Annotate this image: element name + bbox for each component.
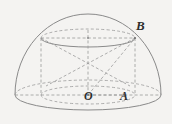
cylinder-top-center-marker	[87, 37, 89, 39]
geometry-figure: B O A	[0, 0, 172, 124]
vertex-label-a: A	[120, 90, 128, 102]
vertex-label-o: O	[84, 90, 93, 102]
vertex-label-b: B	[136, 19, 145, 32]
point-B-marker	[134, 37, 136, 39]
figure-canvas	[0, 0, 172, 124]
